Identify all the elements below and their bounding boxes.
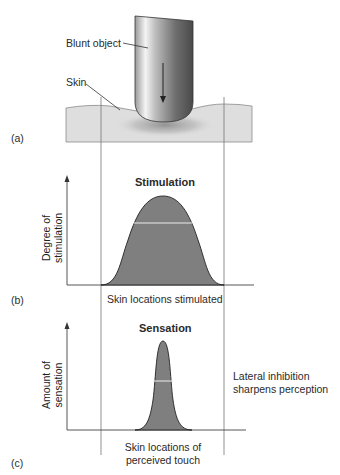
panel-a-tag: (a): [11, 132, 24, 144]
stimulation-chart: [65, 175, 255, 285]
skin-label: Skin: [66, 76, 86, 88]
y-axis-arrow-icon: [65, 322, 70, 329]
stimulation-title: Stimulation: [135, 176, 195, 188]
blunt-object-icon: [135, 16, 193, 122]
sensation-chart: [65, 322, 247, 430]
stimulation-y-label: Degree of stimulation: [40, 198, 64, 278]
stimulation-x-label: Skin locations stimulated: [107, 293, 223, 305]
panel-b-tag: (b): [11, 294, 24, 306]
y-axis-arrow-icon: [65, 175, 70, 182]
sensation-x-label: Skin locations of perceived touch: [113, 441, 213, 467]
blunt-object-label: Blunt object: [66, 37, 121, 49]
panel-c-tag: (c): [11, 457, 23, 469]
sensation-y-label: Amount of sensation: [40, 345, 64, 425]
sensation-title: Sensation: [139, 322, 192, 334]
lateral-inhibition-note: Lateral inhibition sharpens perception: [233, 370, 328, 396]
